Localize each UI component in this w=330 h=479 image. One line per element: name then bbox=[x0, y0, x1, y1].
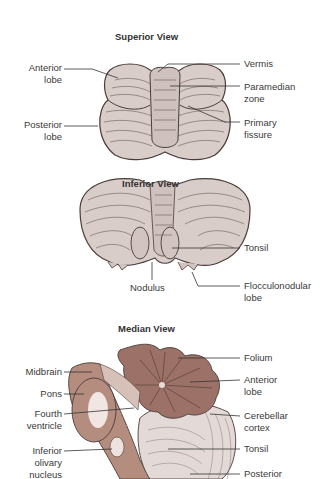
label-inferior-olivary-nucleus: Inferior olivary nucleus bbox=[4, 445, 62, 479]
label-cerebellar-cortex: Cerebellar cortex bbox=[244, 410, 288, 434]
label-anterior-lobe-median: Anterior lobe bbox=[244, 374, 277, 398]
label-posterior: Posterior bbox=[244, 468, 282, 479]
label-tonsil-inferior: Tonsil bbox=[244, 242, 268, 254]
inferior-view-title: Inferior View bbox=[122, 178, 179, 189]
label-pons: Pons bbox=[4, 388, 62, 400]
label-posterior-lobe: Posterior lobe bbox=[12, 119, 62, 143]
label-flocculonodular-lobe: Flocculonodular lobe bbox=[244, 280, 311, 304]
label-tonsil-median: Tonsil bbox=[244, 443, 268, 455]
label-nodulus: Nodulus bbox=[130, 282, 165, 294]
label-folium: Folium bbox=[244, 352, 273, 364]
label-fourth-ventricle: Fourth ventricle bbox=[4, 408, 62, 432]
label-vermis: Vermis bbox=[244, 58, 273, 70]
label-paramedian-zone: Paramedian zone bbox=[244, 81, 295, 105]
median-view-title: Median View bbox=[118, 323, 175, 334]
label-midbrain: Midbrain bbox=[4, 366, 62, 378]
label-primary-fissure: Primary fissure bbox=[244, 117, 277, 141]
label-anterior-lobe: Anterior lobe bbox=[14, 62, 62, 86]
